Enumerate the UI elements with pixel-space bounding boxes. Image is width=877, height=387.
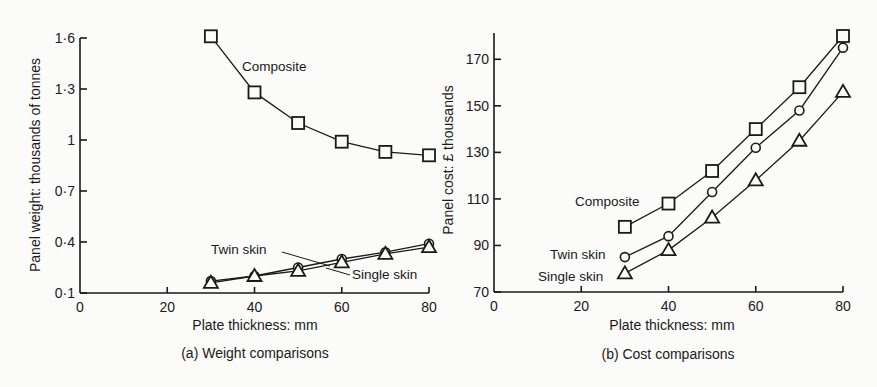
cost-x-tick-label: 80: [835, 298, 851, 314]
weight-caption: (a) Weight comparisons: [181, 345, 329, 361]
cost-label-single-skin: Single skin: [538, 269, 603, 284]
cost-y-tick-label: 90: [473, 237, 489, 253]
weight-x-tick-label: 40: [247, 299, 263, 315]
cost-y-tick-label: 110: [467, 191, 490, 207]
weight-label-single-skin: Single skin: [352, 267, 417, 282]
cost-marker-square-icon: [837, 30, 849, 42]
weight-y-tick-label: 0·4: [55, 234, 75, 250]
weight-marker-square-icon: [249, 86, 261, 98]
cost-x-tick-label: 20: [573, 298, 589, 314]
weight-marker-square-icon: [336, 136, 348, 148]
cost-marker-circle-icon: [664, 232, 673, 241]
cost-marker-circle-icon: [751, 143, 760, 152]
cost-x-axis-title: Plate thickness: mm: [609, 317, 734, 333]
cost-chart: 0204060807090110130150170 Composite Twin…: [440, 30, 851, 362]
weight-label-twin-skin: Twin skin: [211, 242, 267, 257]
cost-line-twin-skin: [625, 48, 843, 257]
cost-marker-square-icon: [750, 123, 762, 135]
weight-label-composite: Composite: [242, 59, 307, 74]
cost-marker-triangle-icon: [836, 85, 850, 97]
cost-y-tick-label: 130: [466, 144, 490, 160]
weight-x-tick-label: 80: [421, 299, 437, 315]
weight-twin-leader-line: [282, 252, 330, 266]
cost-caption: (b) Cost comparisons: [601, 346, 734, 362]
weight-chart: 0204060800·10·40·711·31·6 Composite Twin…: [27, 30, 437, 361]
cost-line-single-skin: [625, 92, 843, 274]
cost-marker-square-icon: [663, 198, 675, 210]
cost-marker-square-icon: [793, 81, 805, 93]
cost-marker-triangle-icon: [618, 266, 632, 278]
cost-marker-square-icon: [706, 165, 718, 177]
weight-y-tick-label: 0·1: [55, 285, 75, 301]
cost-marker-circle-icon: [708, 187, 717, 196]
cost-chart-series: [618, 30, 850, 278]
weight-y-tick-label: 1: [67, 132, 75, 148]
cost-marker-circle-icon: [795, 106, 804, 115]
cost-x-tick-label: 0: [490, 298, 498, 314]
cost-label-twin-skin: Twin skin: [550, 247, 606, 262]
cost-marker-circle-icon: [620, 253, 629, 262]
cost-y-tick-label: 170: [466, 51, 490, 67]
cost-marker-circle-icon: [839, 43, 848, 52]
weight-marker-square-icon: [423, 149, 435, 161]
cost-x-tick-label: 60: [748, 298, 764, 314]
figure: 0204060800·10·40·711·31·6 Composite Twin…: [0, 0, 877, 387]
cost-marker-square-icon: [619, 221, 631, 233]
weight-marker-square-icon: [379, 146, 391, 158]
weight-y-axis-title: Panel weight: thousands of tonnes: [27, 58, 43, 272]
cost-y-tick-label: 150: [466, 98, 490, 114]
weight-x-tick-label: 0: [76, 299, 84, 315]
weight-marker-square-icon: [205, 30, 217, 42]
weight-x-tick-label: 60: [334, 299, 350, 315]
weight-marker-square-icon: [292, 117, 304, 129]
cost-y-axis-title: Panel cost: £ thousands: [440, 85, 456, 234]
weight-y-tick-label: 0·7: [55, 183, 75, 199]
weight-x-tick-label: 20: [159, 299, 175, 315]
cost-marker-triangle-icon: [662, 243, 676, 255]
cost-label-composite: Composite: [575, 194, 640, 209]
weight-y-tick-label: 1·6: [55, 30, 75, 46]
weight-y-tick-label: 1·3: [55, 81, 75, 97]
cost-y-tick-label: 70: [473, 284, 489, 300]
cost-x-tick-label: 40: [661, 298, 677, 314]
weight-line-composite: [211, 36, 429, 155]
weight-x-axis-title: Plate thickness: mm: [192, 317, 317, 333]
weight-single-leader-line: [326, 268, 350, 275]
cost-marker-triangle-icon: [705, 211, 719, 223]
